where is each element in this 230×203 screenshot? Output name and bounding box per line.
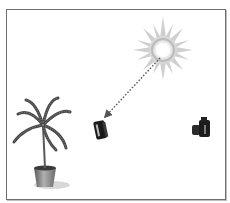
diagram-canvas bbox=[0, 0, 230, 203]
light-ray-arrow bbox=[105, 58, 160, 117]
potted-plant bbox=[14, 98, 70, 189]
sun-icon bbox=[133, 16, 193, 80]
tablet-device-icon bbox=[93, 120, 108, 140]
camera-icon bbox=[192, 117, 210, 137]
